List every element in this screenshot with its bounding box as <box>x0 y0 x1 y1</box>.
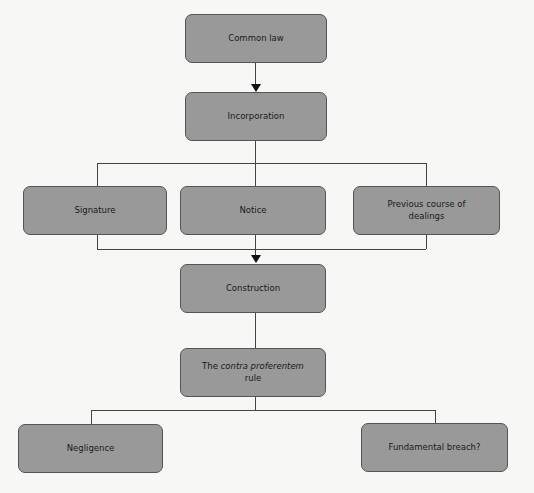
node-label: Common law <box>228 33 284 44</box>
node-label: Construction <box>226 283 280 294</box>
node-label-line2: dealings <box>409 211 445 222</box>
node-contra-proferentem: The contra proferentem rule <box>180 348 326 397</box>
connector-common-to-incorporation <box>255 63 256 85</box>
bracket-bottom <box>97 249 426 250</box>
node-fundamental-breach: Fundamental breach? <box>361 423 508 472</box>
node-construction: Construction <box>180 264 326 313</box>
bracket-contra-left-drop <box>91 410 92 424</box>
node-label: Incorporation <box>228 111 285 122</box>
node-signature: Signature <box>23 186 167 235</box>
arrow-down-icon <box>251 255 261 263</box>
node-label: Notice <box>239 205 266 216</box>
node-common-law: Common law <box>185 14 327 63</box>
node-notice: Notice <box>180 186 326 235</box>
label-italic: contra proferentem <box>221 361 304 371</box>
node-label-line1: The contra proferentem <box>202 361 304 372</box>
node-negligence: Negligence <box>18 424 163 473</box>
bracket-bottom-left-rise <box>97 235 98 249</box>
connector-contra-down <box>255 397 256 410</box>
bracket-contra-right-drop <box>435 410 436 423</box>
bracket-bottom-right-rise <box>426 235 427 249</box>
bracket-top-right-drop <box>426 163 427 186</box>
node-label: Negligence <box>67 443 115 454</box>
node-previous-course-of-dealings: Previous course of dealings <box>353 186 500 235</box>
bracket-top <box>97 163 426 164</box>
bracket-top-left-drop <box>97 163 98 186</box>
node-label: Fundamental breach? <box>388 442 480 453</box>
node-label: Signature <box>74 205 115 216</box>
node-incorporation: Incorporation <box>185 92 327 141</box>
connector-construction-to-contra <box>255 313 256 348</box>
arrow-down-icon <box>251 84 261 92</box>
bracket-contra <box>91 410 436 411</box>
node-label-line1: Previous course of <box>388 199 466 210</box>
connector-notice-to-construction <box>255 235 256 257</box>
node-label-line2: rule <box>245 373 261 384</box>
label-prefix: The <box>202 361 221 371</box>
